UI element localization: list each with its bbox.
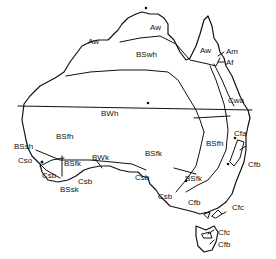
label-cfb-tasmania: Cfb [218, 241, 230, 249]
island-dot [145, 7, 148, 10]
zone-boundary [194, 116, 230, 118]
zone-boundary [230, 140, 244, 166]
zone-boundary [210, 66, 226, 114]
label-bwh: BWh [101, 110, 118, 118]
zone-boundary [176, 132, 204, 192]
label-cfc-tasmania: Cfc [218, 229, 230, 237]
city-dot [227, 163, 230, 166]
city-dot [147, 102, 150, 105]
label-bsfh-west: BSfh [56, 133, 73, 141]
tropic-of-capricorn-line [18, 106, 252, 110]
label-af: Af [226, 59, 234, 67]
label-bssk: BSsk [60, 186, 79, 194]
label-bsfk-west: BSfk [64, 160, 81, 168]
label-aw-north: Aw [150, 24, 161, 32]
label-aw-cape: Aw [200, 47, 211, 55]
city-dot [41, 161, 44, 164]
zone-boundary [66, 70, 204, 132]
label-cfc-victoria: Cfc [232, 204, 244, 212]
label-bwk: BWk [92, 154, 109, 162]
label-aw-west: Aw [88, 38, 99, 46]
label-csb-sw: Csb [42, 172, 56, 180]
label-bsfk-southeast: BSfk [185, 175, 202, 183]
label-cso: Cso [18, 157, 32, 165]
label-csb-sa: Csb [135, 174, 149, 182]
label-cfa: Cfa [234, 130, 246, 138]
label-bsfh-east: BSfh [206, 140, 223, 148]
label-csb-sw2: Csb [78, 178, 92, 186]
label-am: Am [226, 48, 238, 56]
label-bswh: BSwh [136, 51, 157, 59]
label-bsfk-central: BSfk [145, 150, 162, 158]
label-csb-sa2: Csb [158, 193, 172, 201]
tasmania-coastline [196, 226, 218, 252]
zone-boundary [40, 158, 64, 166]
label-cfb-east: Cfb [248, 161, 260, 169]
mainland-coastline [22, 12, 250, 214]
label-bssh: BSsh [14, 143, 33, 151]
zone-boundary [212, 210, 222, 218]
label-cwa: Cwa [228, 97, 244, 105]
australia-climate-map: Aw Aw Aw Am Af BSwh BWh Cwa Cfa BSfh Cfb… [0, 0, 276, 259]
label-cfb-victoria: Cfb [188, 199, 200, 207]
